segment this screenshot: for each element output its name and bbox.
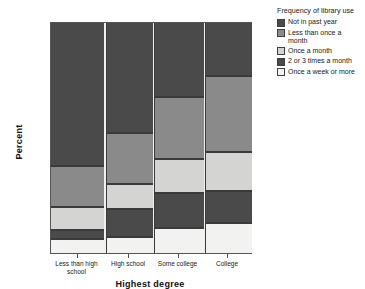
legend-item[interactable]: Not in past year <box>277 18 365 27</box>
bar-segment <box>107 237 153 253</box>
legend-swatch-icon <box>277 29 285 37</box>
bar-column <box>51 23 104 253</box>
legend-item-label: 2 or 3 times a month <box>288 57 352 65</box>
legend-swatch-icon <box>277 58 285 66</box>
plot-area <box>50 22 252 254</box>
stacked-bars <box>51 23 251 253</box>
bar-segment <box>51 207 104 230</box>
bar-segment <box>206 223 252 253</box>
bar-segment <box>155 23 204 97</box>
bar-segment <box>107 184 153 209</box>
legend-item-label: Once a week or more <box>288 68 355 76</box>
bar-segment <box>155 97 204 159</box>
legend-item[interactable]: Once a week or more <box>277 68 365 77</box>
bar-segment <box>206 23 252 76</box>
bar-column <box>154 23 204 253</box>
bar-column <box>205 23 252 253</box>
bar-segment <box>206 152 252 191</box>
bar-segment <box>155 228 204 253</box>
legend-item[interactable]: Less than once a month <box>277 29 365 45</box>
legend-swatch-icon <box>277 68 285 76</box>
legend-item-label: Once a month <box>288 47 332 55</box>
bar-segment <box>206 191 252 223</box>
x-axis: Highest degree Less than high schoolHigh… <box>0 253 365 289</box>
x-tick-mark <box>128 253 129 258</box>
legend-item-label: Not in past year <box>288 18 337 26</box>
legend-title: Frequency of library use <box>277 6 365 15</box>
legend-item-label: Less than once a month <box>288 29 341 45</box>
bar-segment <box>206 76 252 152</box>
legend-item[interactable]: Once a month <box>277 47 365 56</box>
legend-item[interactable]: 2 or 3 times a month <box>277 57 365 66</box>
legend-swatch-icon <box>277 19 285 27</box>
bar-segment <box>107 23 153 133</box>
x-tick-mark <box>227 253 228 258</box>
bar-segment <box>107 133 153 184</box>
x-tick-label: College <box>193 260 261 268</box>
legend: Frequency of library use Not in past yea… <box>277 6 365 78</box>
bar-segment <box>51 166 104 207</box>
x-tick-mark <box>178 253 179 258</box>
legend-swatch-icon <box>277 47 285 55</box>
bar-segment <box>51 23 104 166</box>
bar-segment <box>155 193 204 228</box>
bar-segment <box>107 209 153 237</box>
legend-items: Not in past yearLess than once a monthOn… <box>277 18 365 76</box>
bar-segment <box>155 159 204 194</box>
y-axis-title: Percent <box>14 102 24 182</box>
bar-segment <box>51 230 104 239</box>
y-axis: Percent 100%80%60%40%20%0% <box>0 0 50 289</box>
x-axis-title: Highest degree <box>50 279 250 289</box>
bar-segment <box>51 239 104 253</box>
x-tick-mark <box>77 253 78 258</box>
bar-column <box>106 23 153 253</box>
mosaic-chart: Percent 100%80%60%40%20%0% Highest degre… <box>0 0 365 289</box>
